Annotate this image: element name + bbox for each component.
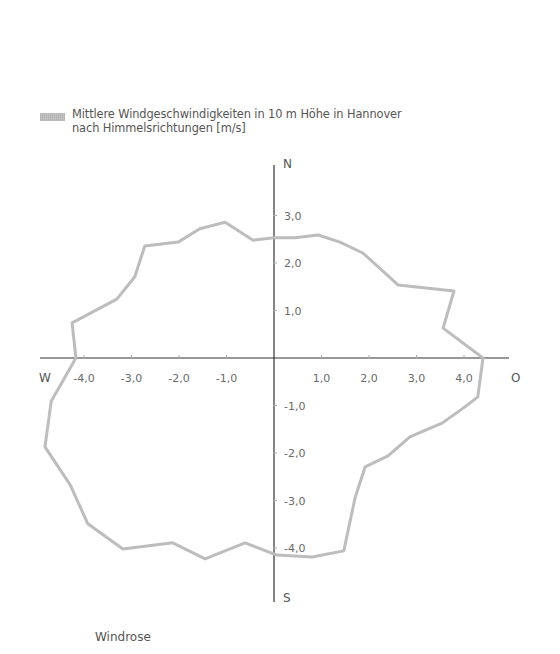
direction-label-north: N bbox=[283, 157, 292, 171]
y-tick-label: -1,0 bbox=[284, 400, 305, 413]
wind-speed-polygon bbox=[45, 222, 483, 559]
x-tick-label: 1,0 bbox=[313, 372, 331, 385]
x-tick-label: -1,0 bbox=[216, 372, 237, 385]
chart-axes bbox=[40, 165, 509, 602]
chart-caption: Windrose bbox=[95, 630, 151, 644]
y-tick-label: 1,0 bbox=[284, 305, 302, 318]
direction-label-south: S bbox=[283, 591, 291, 605]
y-tick-label: 3,0 bbox=[284, 210, 302, 223]
y-tick-label: 2,0 bbox=[284, 257, 302, 270]
direction-label-east: O bbox=[511, 371, 520, 385]
x-tick-label: -4,0 bbox=[73, 372, 94, 385]
y-tick-label: -3,0 bbox=[284, 495, 305, 508]
x-tick-label: 4,0 bbox=[455, 372, 473, 385]
x-tick-label: 3,0 bbox=[408, 372, 426, 385]
x-tick-label: 2,0 bbox=[360, 372, 378, 385]
direction-label-west: W bbox=[39, 371, 51, 385]
y-tick-label: -2,0 bbox=[284, 447, 305, 460]
y-tick-label: -4,0 bbox=[284, 542, 305, 555]
wind-rose-chart: -4,0-3,0-2,0-1,01,02,03,04,03,02,01,0-1,… bbox=[0, 0, 560, 654]
axis-ticks: -4,0-3,0-2,0-1,01,02,03,04,03,02,01,0-1,… bbox=[73, 210, 472, 556]
x-tick-label: -3,0 bbox=[121, 372, 142, 385]
x-tick-label: -2,0 bbox=[168, 372, 189, 385]
